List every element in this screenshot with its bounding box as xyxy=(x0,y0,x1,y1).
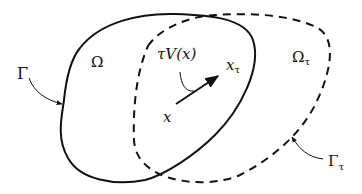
displacement-arrow xyxy=(176,76,218,104)
domain-boundary-solid xyxy=(61,14,255,182)
gamma-tau-leader-arrow xyxy=(292,137,323,159)
label-x: x xyxy=(163,108,172,126)
label-x-tau: xτ xyxy=(226,56,240,75)
label-tau-v-x: τV(x) xyxy=(157,45,196,63)
tau-v-leader xyxy=(180,72,194,91)
label-gamma: Γ xyxy=(17,64,28,83)
label-omega-tau: Ωτ xyxy=(292,48,310,67)
label-gamma-tau: Γτ xyxy=(328,152,344,172)
gamma-leader-arrow xyxy=(29,78,62,104)
shape-diagram: Ω Ωτ Γ Γτ τV(x) x xτ xyxy=(0,0,362,194)
domain-boundary-dashed xyxy=(134,14,330,182)
label-omega: Ω xyxy=(91,53,103,71)
